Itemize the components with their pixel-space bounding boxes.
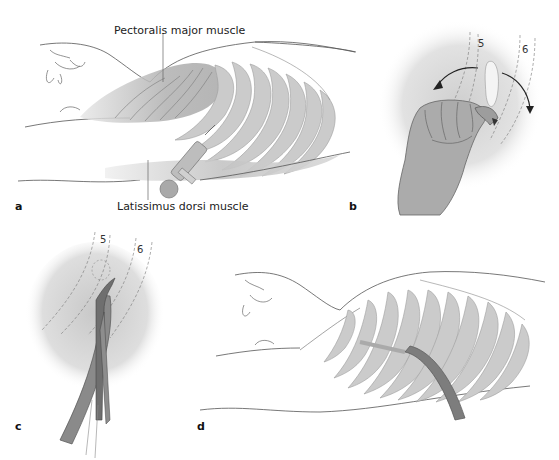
panel-a-drawing [18,34,356,200]
panel-label-c: c [15,420,22,433]
rib-number-6-b: 6 [522,44,528,55]
panel-b-drawing [378,20,542,215]
label-pectoralis-major: Pectoralis major muscle [114,24,245,37]
rib-number-6-c: 6 [137,244,143,255]
panel-d-drawing [200,272,545,420]
rib-number-5-b: 5 [478,38,484,49]
panel-label-b: b [349,200,357,213]
label-latissimus-dorsi: Latissimus dorsi muscle [117,200,248,213]
illustration-canvas [0,0,559,460]
medical-figure: Pectoralis major muscle Latissimus dorsi… [0,0,559,460]
panel-label-d: d [197,420,205,433]
rib-number-5-c: 5 [100,234,106,245]
panel-label-a: a [15,200,22,213]
panel-c-drawing [25,232,165,458]
